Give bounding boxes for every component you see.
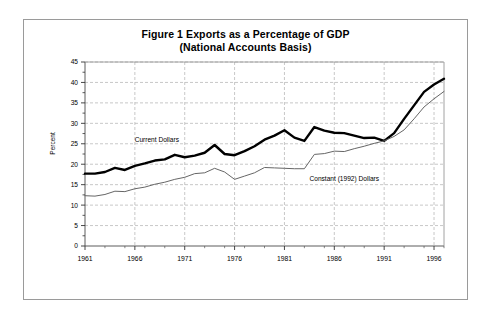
series-line-current-dollars xyxy=(85,79,444,174)
axes xyxy=(85,62,444,246)
y-axis-label: Percent xyxy=(49,114,56,174)
svg-text:45: 45 xyxy=(71,58,79,65)
axis-tick-labels: 0510152025303540451961196619711976198119… xyxy=(71,58,442,262)
svg-text:1976: 1976 xyxy=(227,255,242,262)
svg-text:1991: 1991 xyxy=(377,255,392,262)
svg-text:1961: 1961 xyxy=(77,255,92,262)
svg-text:1981: 1981 xyxy=(277,255,292,262)
svg-text:35: 35 xyxy=(71,99,79,106)
svg-text:5: 5 xyxy=(74,222,78,229)
svg-text:1986: 1986 xyxy=(327,255,342,262)
page-canvas: Figure 1 Exports as a Percentage of GDP … xyxy=(0,0,491,322)
svg-text:1971: 1971 xyxy=(177,255,192,262)
svg-text:30: 30 xyxy=(71,120,79,127)
svg-text:1966: 1966 xyxy=(127,255,142,262)
figure-frame: Figure 1 Exports as a Percentage of GDP … xyxy=(23,19,468,300)
svg-text:25: 25 xyxy=(71,140,79,147)
svg-text:10: 10 xyxy=(71,202,79,209)
line-chart: 0510152025303540451961196619711976198119… xyxy=(24,20,469,301)
axis-ticks xyxy=(81,62,444,250)
svg-text:40: 40 xyxy=(71,79,79,86)
annotation-current-dollars: Current Dollars xyxy=(135,136,180,143)
svg-text:1996: 1996 xyxy=(426,255,441,262)
svg-text:0: 0 xyxy=(74,242,78,249)
svg-text:20: 20 xyxy=(71,161,79,168)
annotation-constant-dollars: Constant (1992) Dollars xyxy=(309,175,379,183)
gridlines xyxy=(85,62,444,246)
plot-area-wrapper: Percent 05101520253035404519611966197119… xyxy=(24,20,469,301)
svg-text:15: 15 xyxy=(71,181,79,188)
